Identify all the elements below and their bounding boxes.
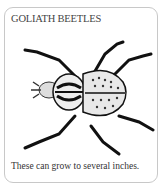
info-card: GOLIATH BEETLES <box>4 7 158 183</box>
goliath-beetle-icon <box>19 30 155 158</box>
card-caption: These can grow to several inches. <box>11 161 139 171</box>
card-title: GOLIATH BEETLES <box>11 13 101 24</box>
